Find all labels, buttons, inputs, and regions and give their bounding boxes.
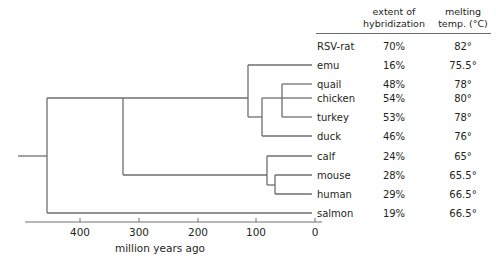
- taxon-label-salmon: salmon: [317, 208, 353, 219]
- column-header-melting-line2: temp. (°C): [432, 18, 494, 30]
- axis-tick-label-200: 200: [178, 226, 218, 238]
- axis-tick-label-400: 400: [60, 226, 100, 238]
- column-header-extent-line2: hybridization: [356, 18, 432, 30]
- taxon-label-rsv-rat: RSV-rat: [317, 41, 354, 52]
- axis-tick-label-300: 300: [119, 226, 159, 238]
- hybridization-value-duck: 46%: [356, 131, 432, 142]
- melting-value-duck: 76°: [432, 131, 494, 142]
- hybridization-value-rsv-rat: 70%: [356, 41, 432, 52]
- taxon-label-human: human: [317, 189, 352, 200]
- melting-value-human: 66.5°: [432, 189, 494, 200]
- axis-tick-label-0: 0: [295, 226, 335, 238]
- hybridization-value-calf: 24%: [356, 151, 432, 162]
- phylogenetic-tree-figure: extent of hybridization melting temp. (°…: [0, 0, 496, 264]
- melting-value-quail: 78°: [432, 79, 494, 90]
- hybridization-value-emu: 16%: [356, 60, 432, 71]
- taxon-label-mouse: mouse: [317, 170, 351, 181]
- hybridization-value-salmon: 19%: [356, 208, 432, 219]
- melting-value-emu: 75.5°: [432, 60, 494, 71]
- melting-value-rsv-rat: 82°: [432, 41, 494, 52]
- taxon-label-calf: calf: [317, 151, 335, 162]
- column-header-melting: melting temp. (°C): [432, 6, 494, 29]
- axis-tick-label-100: 100: [236, 226, 276, 238]
- hybridization-value-turkey: 53%: [356, 112, 432, 123]
- taxon-label-chicken: chicken: [317, 93, 355, 104]
- column-header-extent-line1: extent of: [356, 6, 432, 18]
- melting-value-mouse: 65.5°: [432, 170, 494, 181]
- melting-value-calf: 65°: [432, 151, 494, 162]
- taxon-label-quail: quail: [317, 79, 341, 90]
- axis-caption: million years ago: [60, 242, 260, 254]
- taxon-label-duck: duck: [317, 131, 341, 142]
- column-header-extent: extent of hybridization: [356, 6, 432, 29]
- hybridization-value-human: 29%: [356, 189, 432, 200]
- melting-value-chicken: 80°: [432, 93, 494, 104]
- melting-value-salmon: 66.5°: [432, 208, 494, 219]
- melting-value-turkey: 78°: [432, 112, 494, 123]
- hybridization-value-chicken: 54%: [356, 93, 432, 104]
- taxon-label-turkey: turkey: [317, 112, 349, 123]
- header-divider: [316, 33, 491, 34]
- hybridization-value-quail: 48%: [356, 79, 432, 90]
- column-header-melting-line1: melting: [432, 6, 494, 18]
- taxon-label-emu: emu: [317, 60, 339, 71]
- hybridization-value-mouse: 28%: [356, 170, 432, 181]
